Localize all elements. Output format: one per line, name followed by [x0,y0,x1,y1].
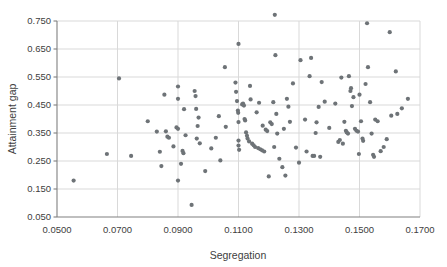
data-point [275,131,279,135]
data-point [72,179,76,183]
y-tick-label: 0.750 [27,15,51,26]
scatter-chart: 0.0500.1500.2500.3500.4500.5500.6500.750… [0,0,447,267]
data-point [155,130,159,134]
data-point [193,94,197,98]
data-point [385,137,389,141]
data-point [236,120,240,124]
data-point [274,112,278,116]
data-point [366,65,370,69]
data-point [400,106,404,110]
data-point [368,100,372,104]
data-point [158,150,162,154]
data-point [314,120,318,124]
data-point [339,75,343,79]
data-point [217,114,221,118]
data-point [164,129,168,133]
data-point [320,80,324,84]
data-point [379,149,383,153]
data-point [249,97,253,101]
axis-lines [54,21,421,217]
data-point [255,110,259,114]
data-point [298,58,302,62]
data-point [196,116,200,120]
data-point [176,84,180,88]
data-point [194,107,198,111]
data-point [317,105,321,109]
data-point [372,155,376,159]
data-point [233,81,237,85]
x-tick-label: 0.1700 [405,224,434,235]
data-point [376,119,380,123]
data-point [361,139,365,143]
data-point [265,129,269,133]
data-point [224,125,228,129]
data-point [209,146,213,150]
y-tick-label: 0.550 [27,71,51,82]
data-point [346,131,350,135]
data-point [176,179,180,183]
data-point [267,174,271,178]
data-point [105,152,109,156]
data-point [262,149,266,153]
data-point [388,30,392,34]
grid-lines [57,21,420,217]
data-point [179,162,183,166]
data-point [304,149,308,153]
x-tick-label: 0.0900 [163,224,192,235]
data-point [338,138,342,142]
y-tick-label: 0.150 [27,183,51,194]
data-point [234,90,238,94]
data-point [297,161,301,165]
data-point [365,21,369,25]
data-point [117,76,121,80]
data-point [167,136,171,140]
y-tick-label: 0.250 [27,155,51,166]
y-axis-title: Attainment gap [6,84,18,155]
data-point [303,117,307,121]
data-point [283,173,287,177]
data-point [294,145,298,149]
x-tick-labels: 0.05000.07000.09000.11000.13000.15000.17… [42,224,434,235]
data-point [347,74,351,78]
data-point [307,74,311,78]
data-point [333,102,337,106]
data-point [236,42,240,46]
data-point [203,169,207,173]
data-point [272,145,276,149]
data-point [183,133,187,137]
x-tick-label: 0.0500 [42,224,71,235]
data-point [291,81,295,85]
data-point [349,86,353,90]
chart-canvas: 0.0500.1500.2500.3500.4500.5500.6500.750… [0,0,447,267]
data-point [286,105,290,109]
data-point [273,53,277,57]
data-point [356,130,360,134]
data-point [370,131,374,135]
y-tick-label: 0.450 [27,99,51,110]
data-point [236,144,240,148]
data-point [248,84,252,88]
x-tick-label: 0.1500 [345,224,374,235]
data-point [357,152,361,156]
data-point [243,118,247,122]
data-point [341,142,345,146]
data-point [261,124,265,128]
data-point [176,127,180,131]
data-point [162,93,166,97]
x-tick-label: 0.0700 [103,224,132,235]
data-point [214,136,218,140]
data-point [394,69,398,73]
data-point [389,114,393,118]
data-point [159,164,163,168]
data-point [312,154,316,158]
data-point [196,124,200,128]
x-tick-label: 0.1300 [284,224,313,235]
data-point [223,65,227,69]
data-point [342,120,346,124]
data-point [382,145,386,149]
data-point [359,119,363,123]
data-point [323,100,327,104]
data-point [193,89,197,93]
data-point [271,100,275,104]
data-point [273,13,277,17]
